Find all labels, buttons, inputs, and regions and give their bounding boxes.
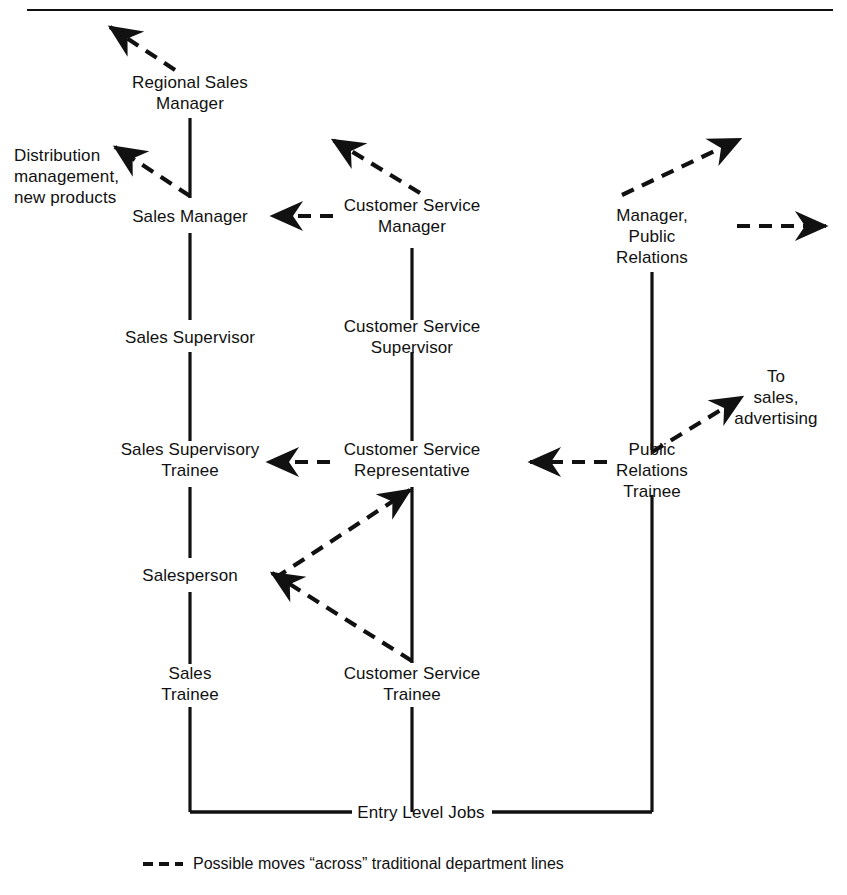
dashed-arrow-customer-service-manager-up	[333, 140, 420, 193]
exit-label-to-sales-advertising: To sales, advertising	[734, 366, 817, 429]
node-entry-level-jobs: Entry Level Jobs	[357, 802, 484, 823]
node-customer-service-trainee: Customer Service Trainee	[344, 663, 481, 705]
node-manager-public-relations: Manager, Public Relations	[616, 205, 688, 268]
legend-label: Possible moves “across” traditional depa…	[193, 855, 564, 873]
career-path-diagram: Regional Sales ManagerSales ManagerSales…	[0, 0, 847, 895]
node-sales-manager: Sales Manager	[132, 206, 248, 227]
dashed-arrow-manager-public-relations-up	[622, 139, 740, 195]
node-regional-sales-manager: Regional Sales Manager	[132, 72, 248, 114]
legend-dashed-line-icon	[142, 859, 184, 869]
legend: Possible moves “across” traditional depa…	[142, 855, 564, 873]
dashed-arrow-sales-manager-to-distribution	[115, 147, 190, 196]
node-customer-service-supervisor: Customer Service Supervisor	[344, 316, 481, 358]
node-salesperson: Salesperson	[142, 565, 238, 586]
exit-label-distribution-management: Distribution management, new products	[14, 145, 119, 208]
node-sales-supervisory-trainee: Sales Supervisory Trainee	[121, 439, 260, 481]
node-customer-service-representative: Customer Service Representative	[344, 439, 481, 481]
dashed-arrow-regional-sales-manager-up	[110, 27, 175, 70]
node-customer-service-manager: Customer Service Manager	[344, 195, 481, 237]
dashed-arrow-cs-trainee-to-salesperson	[272, 573, 412, 661]
node-sales-supervisor: Sales Supervisor	[125, 327, 255, 348]
node-sales-trainee: Sales Trainee	[161, 663, 219, 705]
dashed-arrow-salesperson-to-cs-representative	[275, 490, 410, 578]
node-public-relations-trainee: Public Relations Trainee	[616, 439, 688, 502]
